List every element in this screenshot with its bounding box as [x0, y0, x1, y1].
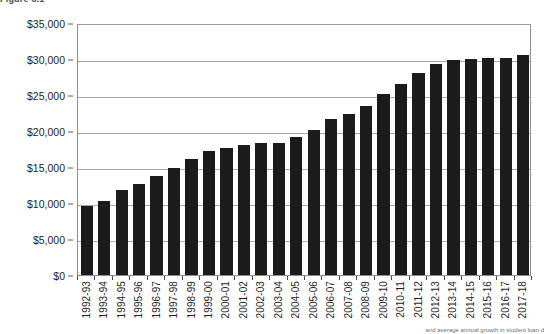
bar [238, 145, 250, 275]
bar [377, 94, 389, 275]
x-tick-label: 2016-17 [500, 281, 511, 318]
x-tick-mark [199, 276, 200, 280]
y-tick-label: $30,000 [27, 54, 65, 66]
x-tick-mark [304, 276, 305, 280]
bar [308, 130, 320, 275]
bar [500, 58, 512, 275]
bar-chart-figure: Figure 3.1 $0$5,000$10,000$15,000$20,000… [0, 0, 546, 334]
x-tick-label: 1998-99 [186, 281, 197, 318]
x-tick-mark [234, 276, 235, 280]
x-tick-label: 2002-03 [255, 281, 266, 318]
x-tick-label: 1995-96 [133, 281, 144, 318]
x-tick-mark [217, 276, 218, 280]
x-tick-label: 1993-94 [98, 281, 109, 318]
x-tick-label: 2012-13 [430, 281, 441, 318]
x-tick-label: 1997-98 [168, 281, 179, 318]
bar [343, 114, 355, 275]
x-tick-mark [94, 276, 95, 280]
bar [465, 59, 477, 275]
x-tick-mark [514, 276, 515, 280]
x-tick-label: 2006-07 [325, 281, 336, 318]
bar [203, 151, 215, 275]
bar [395, 84, 407, 275]
bar [150, 176, 162, 275]
x-tick-mark [112, 276, 113, 280]
x-tick-mark [391, 276, 392, 280]
x-tick-mark [77, 276, 78, 280]
x-tick-label: 2001-02 [238, 281, 249, 318]
x-tick-mark [129, 276, 130, 280]
x-tick-mark [321, 276, 322, 280]
x-tick-mark [409, 276, 410, 280]
bar [220, 148, 232, 275]
bar [360, 106, 372, 275]
y-tick-label: $5,000 [33, 234, 65, 246]
bar [168, 168, 180, 275]
bar [98, 201, 110, 275]
y-tick-label: $15,000 [27, 162, 65, 174]
x-axis: 1992-931993-941994-951995-961996-971997-… [77, 281, 531, 331]
x-tick-mark [269, 276, 270, 280]
y-tick-mark [68, 168, 73, 169]
x-tick-label: 2007-08 [343, 281, 354, 318]
bar [290, 137, 302, 275]
bar [412, 73, 424, 275]
x-tick-mark [479, 276, 480, 280]
x-tick-mark [426, 276, 427, 280]
x-tick-mark [252, 276, 253, 280]
caption-fragment: Figure 3.1 [0, 0, 120, 6]
y-tick-label: $20,000 [27, 126, 65, 138]
y-tick-mark [68, 276, 73, 277]
x-tick-mark [531, 276, 532, 280]
x-tick-label: 2008-09 [360, 281, 371, 318]
y-tick-label: $10,000 [27, 198, 65, 210]
bar [447, 60, 459, 275]
footnote-fragment: and average annual growth in student loa… [394, 327, 544, 334]
y-tick-mark [68, 204, 73, 205]
bar [273, 143, 285, 275]
y-tick-mark [68, 96, 73, 97]
x-tick-label: 2003-04 [273, 281, 284, 318]
y-tick-label: $35,000 [27, 18, 65, 30]
y-tick-mark [68, 60, 73, 61]
y-tick-mark [68, 24, 73, 25]
x-tick-label: 2000-01 [220, 281, 231, 318]
x-tick-label: 2004-05 [290, 281, 301, 318]
x-tick-mark [356, 276, 357, 280]
x-tick-mark [496, 276, 497, 280]
y-tick-label: $25,000 [27, 90, 65, 102]
bars-layer [78, 25, 530, 275]
x-tick-label: 2014-15 [465, 281, 476, 318]
y-tick-label: $0 [53, 270, 65, 282]
x-tick-label: 2013-14 [447, 281, 458, 318]
bar [81, 206, 93, 275]
bar [325, 119, 337, 275]
plot-area [77, 24, 531, 276]
x-tick-label: 1994-95 [116, 281, 127, 318]
bar [116, 190, 128, 275]
bar [185, 159, 197, 275]
x-tick-mark [444, 276, 445, 280]
x-tick-label: 2009-10 [378, 281, 389, 318]
x-tick-mark [461, 276, 462, 280]
x-tick-mark [339, 276, 340, 280]
bar [517, 55, 529, 275]
x-tick-label: 1999-00 [203, 281, 214, 318]
x-tick-label: 2011-12 [413, 281, 424, 318]
bar [255, 143, 267, 275]
x-tick-label: 2005-06 [308, 281, 319, 318]
x-tick-label: 2015-16 [482, 281, 493, 318]
x-tick-label: 2017-18 [517, 281, 528, 318]
x-tick-mark [147, 276, 148, 280]
x-tick-mark [287, 276, 288, 280]
x-tick-mark [374, 276, 375, 280]
x-tick-label: 1992-93 [81, 281, 92, 318]
y-axis: $0$5,000$10,000$15,000$20,000$25,000$30,… [0, 24, 73, 276]
bar [133, 184, 145, 275]
y-tick-mark [68, 240, 73, 241]
x-tick-mark [164, 276, 165, 280]
y-tick-mark [68, 132, 73, 133]
bar [482, 58, 494, 275]
x-tick-mark [182, 276, 183, 280]
x-tick-label: 1996-97 [151, 281, 162, 318]
